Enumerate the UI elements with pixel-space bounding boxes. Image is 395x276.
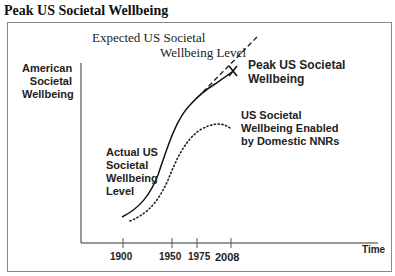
expected-label-line: Wellbeing Level: [92, 45, 252, 60]
domestic-label-line: Wellbeing Enabled: [241, 122, 339, 135]
peak-label-line: Wellbeing: [248, 72, 345, 86]
domestic-nnr-label: US Societal Wellbeing Enabled by Domesti…: [241, 109, 339, 148]
expected-label-line: Expected US Societal: [92, 30, 252, 45]
tick-label-2008: 2008: [215, 251, 239, 263]
peak-label: Peak US Societal Wellbeing: [248, 58, 345, 86]
tick-label-1975: 1975: [188, 251, 210, 262]
actual-label-line: Actual US: [106, 146, 158, 159]
actual-label-line: Level: [106, 185, 158, 198]
y-label-line: Societal: [22, 75, 72, 88]
tick-label-1900: 1900: [110, 251, 132, 262]
domestic-label-line: US Societal: [241, 109, 339, 122]
expected-label: Expected US Societal Wellbeing Level: [92, 30, 252, 60]
y-axis-label: American Societal Wellbeing: [22, 62, 72, 101]
actual-label-line: Wellbeing: [106, 172, 158, 185]
domestic-label-line: by Domestic NNRs: [241, 135, 339, 148]
tick-label-1950: 1950: [159, 251, 181, 262]
actual-label: Actual US Societal Wellbeing Level: [106, 146, 158, 198]
actual-label-line: Societal: [106, 159, 158, 172]
y-label-line: American: [22, 62, 72, 75]
x-axis-label: Time: [362, 244, 385, 255]
y-label-line: Wellbeing: [22, 88, 72, 101]
peak-label-line: Peak US Societal: [248, 58, 345, 72]
peak-marker-icon: [229, 66, 237, 76]
